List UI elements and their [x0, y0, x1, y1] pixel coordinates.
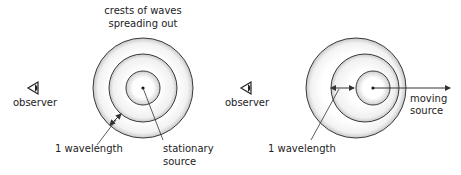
- eye-icon: [241, 82, 251, 94]
- wavelength-label: 1 wavelength: [55, 143, 123, 154]
- source-label-line2: source: [163, 156, 196, 167]
- crests-title-line2: spreading out: [108, 18, 177, 29]
- crests-title-line1: crests of waves: [104, 5, 181, 16]
- source-label-line1: stationary: [163, 143, 214, 154]
- source-label-line2: source: [410, 105, 443, 116]
- stationary-source-diagram: crests of waves spreading out 1 waveleng…: [13, 5, 214, 167]
- wavelength-leader: [97, 120, 116, 145]
- eye-icon: [28, 82, 38, 94]
- observer-label: observer: [225, 97, 270, 108]
- source-label-line1: moving: [410, 93, 447, 104]
- doppler-diagram: crests of waves spreading out 1 waveleng…: [0, 0, 461, 175]
- wavelength-label: 1 wavelength: [268, 143, 336, 154]
- moving-source-diagram: 1 wavelength moving source observer: [225, 38, 450, 154]
- observer-label: observer: [13, 97, 58, 108]
